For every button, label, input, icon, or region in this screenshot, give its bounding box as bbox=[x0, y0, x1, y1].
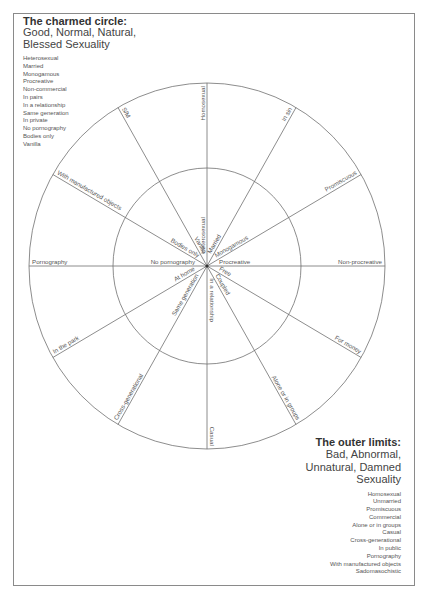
outer-list-item: Unmarried bbox=[306, 498, 401, 506]
outer-list-item: Homosexual bbox=[306, 491, 401, 499]
outer-spoke-label: Promiscuous bbox=[323, 169, 357, 193]
charmed-list-item: In a relationship bbox=[23, 102, 136, 110]
spoke-line bbox=[207, 175, 361, 267]
outer-spoke-label: Non-procreative bbox=[338, 258, 383, 265]
spoke-line bbox=[207, 108, 296, 266]
outer-subtitle-1: Bad, Abnormal, bbox=[306, 448, 401, 461]
outer-spoke-label: Homosexual bbox=[199, 86, 206, 120]
charmed-circle-legend: The charmed circle: Good, Normal, Natura… bbox=[23, 15, 136, 149]
outer-list-item: Sadomasochistic bbox=[306, 568, 401, 576]
charmed-list: HeterosexualMarriedMonogamousProcreative… bbox=[23, 55, 136, 149]
outer-spoke-label: In the park bbox=[51, 334, 81, 355]
outer-limits-legend: The outer limits: Bad, Abnormal, Unnatur… bbox=[306, 436, 401, 576]
charmed-subtitle-2: Blessed Sexuality bbox=[23, 39, 136, 51]
outer-spoke-label: Casual bbox=[209, 427, 216, 446]
outer-list-item: Casual bbox=[306, 529, 401, 537]
charmed-list-item: Non-commercial bbox=[23, 86, 136, 94]
spoke-line bbox=[118, 266, 207, 424]
outer-subtitle-3: Sexuality bbox=[306, 473, 401, 486]
outer-list: HomosexualUnmarriedPromiscuousCommercial… bbox=[306, 491, 401, 577]
charmed-list-item: In private bbox=[23, 117, 136, 125]
outer-spoke-label: Pornography bbox=[32, 258, 68, 265]
outer-list-item: Commercial bbox=[306, 514, 401, 522]
center-dot bbox=[205, 264, 208, 267]
spoke-line bbox=[53, 266, 207, 358]
outer-list-item: In public bbox=[306, 545, 401, 553]
charmed-list-item: Bodies only bbox=[23, 133, 136, 141]
outer-spoke-label: In sin bbox=[280, 105, 294, 122]
spoke-line bbox=[53, 175, 207, 267]
charmed-list-item: No pornography bbox=[23, 125, 136, 133]
outer-list-item: Alone or in groups bbox=[306, 522, 401, 530]
inner-spoke-label: No pornography bbox=[151, 258, 196, 265]
charmed-list-item: Monogamous bbox=[23, 71, 136, 79]
charmed-list-item: In pairs bbox=[23, 94, 136, 102]
charmed-list-item: Heterosexual bbox=[23, 55, 136, 63]
inner-spoke-label: Procreative bbox=[219, 258, 251, 265]
outer-spoke-label: With manufactured objects bbox=[56, 169, 123, 212]
charmed-subtitle-1: Good, Normal, Natural, bbox=[23, 27, 136, 39]
outer-title: The outer limits: bbox=[306, 436, 401, 448]
outer-spoke-label: Alone or in groups bbox=[271, 374, 302, 421]
charmed-list-item: Procreative bbox=[23, 78, 136, 86]
outer-spoke-label: For money bbox=[334, 334, 364, 355]
charmed-list-item: Married bbox=[23, 63, 136, 71]
outer-list-item: With manufactured objects bbox=[306, 561, 401, 569]
outer-spoke-label: Cross-generational bbox=[112, 372, 144, 421]
charmed-list-item: Vanilla bbox=[23, 141, 136, 149]
outer-subtitle-2: Unnatural, Damned bbox=[306, 461, 401, 474]
charmed-list-item: Same generation bbox=[23, 110, 136, 118]
outer-list-item: Promiscuous bbox=[306, 506, 401, 514]
outer-list-item: Cross-generational bbox=[306, 537, 401, 545]
spoke-line bbox=[207, 266, 296, 424]
spoke-line bbox=[207, 266, 361, 358]
outer-list-item: Pornography bbox=[306, 553, 401, 561]
inner-spoke-label: In a relationship bbox=[209, 278, 216, 322]
